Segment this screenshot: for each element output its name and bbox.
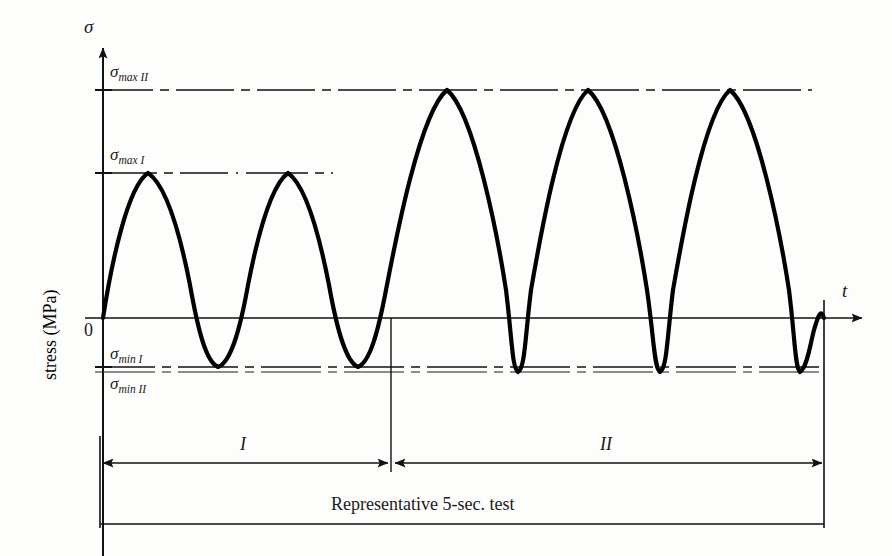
sigma-subscript: max II [118,71,148,83]
y-axis-label: stress (MPa) [40,290,61,381]
region-label-II: II [600,434,612,455]
y-axis-symbol: σ [84,16,93,38]
label-sigma-min-II: σmin II [110,374,146,395]
label-sigma-max-I: σmax I [110,145,144,166]
sigma-subscript: max I [118,154,144,166]
label-sigma-min-I: σmin I [110,344,142,365]
label-sigma-max-II: σmax II [110,62,148,83]
x-axis-symbol: t [842,280,847,302]
stress-waveform [103,90,824,372]
sigma-subscript: min I [118,353,142,365]
region-label-I: I [240,434,246,455]
sigma-subscript: min II [118,383,146,395]
stress-time-diagram [0,0,892,556]
origin-label: 0 [84,320,93,341]
figure-caption: Representative 5-sec. test [331,494,514,515]
figure-canvas: σ t 0 stress (MPa) σmax II σmax I σmin I… [0,0,892,556]
